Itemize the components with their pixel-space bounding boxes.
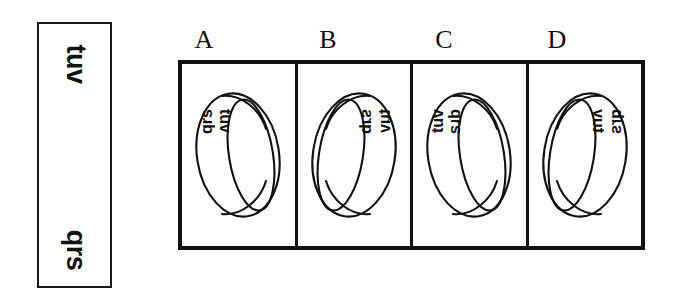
ring-shape-icon (417, 85, 521, 225)
ring-drawing-c: qrs tuv (417, 85, 521, 225)
option-panel-c[interactable]: qrs tuv (413, 64, 529, 246)
panel-letter-a: A (184, 27, 224, 53)
panel-letter-b: B (308, 27, 348, 53)
panel-letter-c: C (424, 27, 464, 53)
option-panel-a[interactable]: tuv qrs (182, 64, 298, 246)
option-panel-b[interactable]: qrs tuv (298, 64, 414, 246)
answer-options-box: tuv qrs qrs tuv (178, 60, 645, 250)
option-panel-d[interactable]: tuv qrs (529, 64, 642, 246)
ring-drawing-b: qrs tuv (302, 85, 406, 225)
ring-shape-icon (302, 85, 406, 225)
panel-letter-d: D (537, 27, 577, 53)
reference-strip-label-top: tuv (59, 45, 90, 84)
ring-drawing-d: tuv qrs (533, 85, 637, 225)
ring-shape-icon (186, 85, 290, 225)
ring-shape-icon (533, 85, 637, 225)
ring-drawing-a: tuv qrs (186, 85, 290, 225)
reference-strip-label-bottom: qrs (59, 230, 90, 271)
reference-strip: tuv qrs (37, 22, 112, 288)
